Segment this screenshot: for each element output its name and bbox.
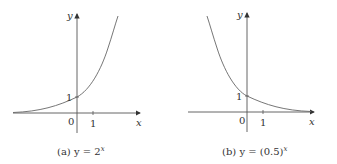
chart-b: y x 0 1 1 (b) y = (0.5)x — [188, 9, 315, 157]
caption-a: (a) y = 2x — [57, 145, 105, 157]
x-tick-label: 1 — [260, 117, 266, 128]
x-axis-label: x — [309, 116, 315, 127]
x-axis-label: x — [136, 117, 142, 128]
caption-b: (b) y = (0.5)x — [222, 145, 287, 157]
origin-label: 0 — [68, 116, 74, 127]
origin-label: 0 — [239, 115, 245, 126]
x-tick-label: 1 — [90, 118, 96, 129]
y-axis-label: y — [236, 9, 243, 20]
curve-half-pow-x — [207, 16, 311, 112]
figure: y x 0 1 1 (a) y = 2x y x 0 1 1 (b) y = (… — [0, 0, 337, 164]
y-tick-label: 1 — [66, 92, 72, 103]
y-axis-label: y — [66, 10, 73, 21]
chart-a: y x 0 1 1 (a) y = 2x — [13, 10, 142, 157]
y-tick-label: 1 — [236, 91, 242, 102]
